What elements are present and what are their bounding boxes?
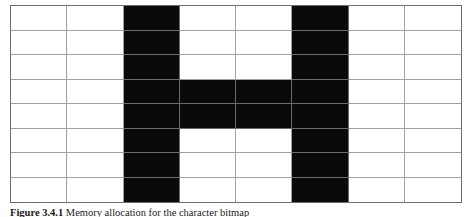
bitmap-cell [67, 80, 123, 105]
bitmap-cell [67, 178, 123, 203]
bitmap-cell [349, 104, 405, 129]
bitmap-cell [11, 104, 67, 129]
bitmap-cell [124, 31, 180, 56]
bitmap-cell [292, 104, 348, 129]
figure-caption: Figure 3.4.1 Memory allocation for the c… [10, 206, 462, 217]
bitmap-cell [405, 6, 461, 31]
bitmap-cell [67, 129, 123, 154]
bitmap-cell [292, 55, 348, 80]
bitmap-cell [180, 6, 236, 31]
bitmap-cell [349, 6, 405, 31]
bitmap-cell [405, 153, 461, 178]
bitmap-cell [11, 80, 67, 105]
bitmap-cell [349, 55, 405, 80]
bitmap-cell [67, 153, 123, 178]
bitmap-cell [67, 31, 123, 56]
bitmap-cell [11, 6, 67, 31]
bitmap-cell [236, 55, 292, 80]
bitmap-cell [11, 31, 67, 56]
bitmap-cell [124, 55, 180, 80]
bitmap-cell [124, 129, 180, 154]
bitmap-cell [67, 55, 123, 80]
bitmap-cell [405, 129, 461, 154]
bitmap-cell [124, 6, 180, 31]
bitmap-cell [292, 129, 348, 154]
bitmap-cell [124, 80, 180, 105]
bitmap-cell [11, 153, 67, 178]
bitmap-cell [236, 80, 292, 105]
figure-caption-text: Memory allocation for the character bitm… [66, 207, 249, 217]
bitmap-cell [180, 178, 236, 203]
bitmap-cell [180, 129, 236, 154]
bitmap-cell [349, 153, 405, 178]
bitmap-cell [236, 104, 292, 129]
bitmap-cell [11, 178, 67, 203]
bitmap-cell [180, 80, 236, 105]
bitmap-cell [236, 6, 292, 31]
bitmap-cell [236, 129, 292, 154]
figure-caption-label: Figure 3.4.1 [10, 207, 63, 217]
bitmap-cell [180, 55, 236, 80]
bitmap-cell [405, 31, 461, 56]
bitmap-cell [124, 153, 180, 178]
bitmap-cell [349, 129, 405, 154]
bitmap-cell [236, 178, 292, 203]
bitmap-cell [11, 55, 67, 80]
bitmap-cell [236, 31, 292, 56]
bitmap-cell [11, 129, 67, 154]
bitmap-cell [349, 31, 405, 56]
bitmap-cell [180, 31, 236, 56]
bitmap-cell [292, 31, 348, 56]
bitmap-cell [236, 153, 292, 178]
bitmap-cell [405, 178, 461, 203]
bitmap-cell [349, 80, 405, 105]
bitmap-cell [180, 104, 236, 129]
bitmap-cell [124, 104, 180, 129]
bitmap-cell [67, 6, 123, 31]
figure-container: Figure 3.4.1 Memory allocation for the c… [0, 0, 469, 217]
bitmap-cell [292, 80, 348, 105]
bitmap-cell [292, 178, 348, 203]
bitmap-cell [405, 80, 461, 105]
bitmap-cell [405, 55, 461, 80]
bitmap-cell [67, 104, 123, 129]
bitmap-grid [10, 5, 462, 203]
bitmap-cell [292, 153, 348, 178]
bitmap-cell [292, 6, 348, 31]
bitmap-cell [349, 178, 405, 203]
bitmap-cell [124, 178, 180, 203]
bitmap-cell [405, 104, 461, 129]
bitmap-cell [180, 153, 236, 178]
